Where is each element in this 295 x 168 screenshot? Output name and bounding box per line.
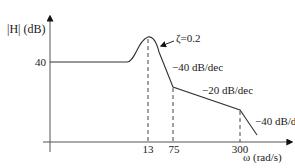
x-tick-label-75: 75 bbox=[169, 143, 181, 155]
bode-magnitude-diagram: |H| (dB) ω (rad/s) 40 13 75 300 ζ=0.2 −4… bbox=[0, 0, 295, 168]
zeta-pointer-arrow bbox=[161, 41, 174, 46]
y-axis-label: |H| (dB) bbox=[7, 22, 45, 36]
x-axis-label: ω (rad/s) bbox=[243, 151, 282, 164]
x-tick-label-13: 13 bbox=[143, 143, 155, 155]
zeta-annotation: ζ=0.2 bbox=[176, 32, 201, 45]
x-tick-label-300: 300 bbox=[232, 143, 249, 155]
y-tick-label-40: 40 bbox=[35, 56, 47, 68]
slope-label-2: −20 dB/dec bbox=[202, 84, 253, 96]
slope-label-3: −40 dB/dec bbox=[255, 115, 295, 127]
slope-label-1: −40 dB/dec bbox=[172, 61, 223, 73]
